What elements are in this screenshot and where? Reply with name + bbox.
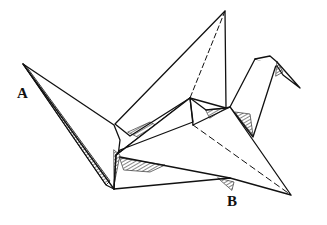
label-b: B xyxy=(227,194,237,209)
left-wing xyxy=(23,64,120,189)
crane-drawing xyxy=(0,0,327,225)
label-a: A xyxy=(17,86,28,101)
origami-crane-figure: A B xyxy=(0,0,327,225)
